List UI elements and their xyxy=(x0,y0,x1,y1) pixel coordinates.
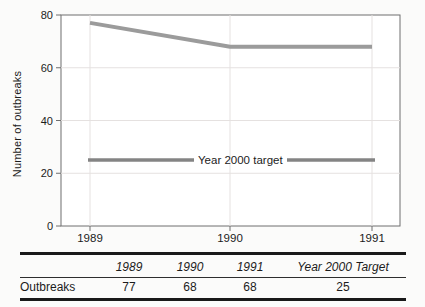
outbreaks-table: 1989 1990 1991 Year 2000 Target Outbreak… xyxy=(20,252,406,301)
x-tick-label: 1989 xyxy=(77,232,103,244)
y-tick-label: 40 xyxy=(41,115,53,127)
y-tick-label: 60 xyxy=(41,62,53,74)
table-corner-cell xyxy=(20,254,98,278)
x-tick-label: 1990 xyxy=(217,232,243,244)
cell-outbreaks-1989: 77 xyxy=(98,278,160,300)
report-figure-page: 020406080198919901991 Year 2000 target N… xyxy=(0,0,425,307)
data-table: 1989 1990 1991 Year 2000 Target Outbreak… xyxy=(20,252,406,301)
table-row-outbreaks: Outbreaks 77 68 68 25 xyxy=(20,278,406,300)
chart-canvas: 020406080198919901991 Year 2000 target N… xyxy=(0,0,425,250)
x-tick-label: 1991 xyxy=(359,232,385,244)
y-tick-label: 80 xyxy=(41,9,53,21)
table-col-year-2000-target: Year 2000 Target xyxy=(280,254,406,278)
cell-outbreaks-1990: 68 xyxy=(160,278,220,300)
y-tick-label: 20 xyxy=(41,167,53,179)
row-header-outbreaks: Outbreaks xyxy=(20,278,98,300)
table-header-row: 1989 1990 1991 Year 2000 Target xyxy=(20,254,406,278)
y-axis-title: Number of outbreaks xyxy=(11,70,23,177)
cell-outbreaks-target: 25 xyxy=(280,278,406,300)
y-tick-label: 0 xyxy=(47,220,53,232)
cell-outbreaks-1991: 68 xyxy=(220,278,280,300)
table-col-1990: 1990 xyxy=(160,254,220,278)
table-col-1989: 1989 xyxy=(98,254,160,278)
outbreaks-line-chart: 020406080198919901991 Year 2000 target N… xyxy=(0,0,425,250)
table-col-1991: 1991 xyxy=(220,254,280,278)
target-line-label: Year 2000 target xyxy=(198,154,283,166)
